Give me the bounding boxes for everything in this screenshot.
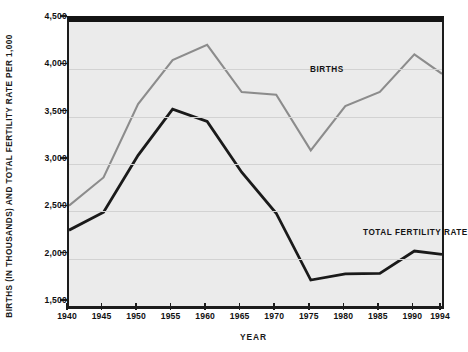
x-axis-title: YEAR — [67, 332, 440, 342]
x-axis-tick-mark — [170, 303, 172, 310]
y-axis-tick-mark — [60, 63, 67, 65]
y-axis-tick-mark — [60, 252, 67, 254]
x-axis-tick-mark — [273, 303, 275, 310]
plot-inner: BIRTHS TOTAL FERTILITY RATE — [69, 22, 442, 306]
x-axis-tick-mark — [135, 303, 137, 310]
births-series-label: BIRTHS — [310, 65, 344, 74]
y-axis-tick-mark — [60, 15, 67, 17]
y-axis-tick-mark — [60, 299, 67, 301]
x-axis-tick-mark — [66, 303, 68, 310]
y-axis-tick-mark — [60, 110, 67, 112]
x-axis-tick-label: 1994 — [420, 311, 460, 321]
x-axis-tick-mark — [204, 303, 206, 310]
plot-area: BIRTHS TOTAL FERTILITY RATE — [67, 16, 444, 309]
x-axis-tick-mark — [412, 303, 414, 310]
x-axis-tick-mark — [239, 303, 241, 310]
x-axis-tick-labels: 1940194519501955196019651970197519801985… — [67, 311, 440, 327]
gridline — [69, 117, 442, 118]
gridline — [69, 259, 442, 260]
total-fertility-rate-series-label: TOTAL FERTILITY RATE — [363, 228, 468, 237]
x-axis-tick-mark — [308, 303, 310, 310]
x-axis-tick-marks — [67, 303, 440, 311]
x-axis-tick-mark — [343, 303, 345, 310]
x-axis-tick-mark — [377, 303, 379, 310]
gridline — [69, 164, 442, 165]
total-fertility-rate-line — [69, 109, 442, 280]
y-axis-tick-mark — [60, 157, 67, 159]
y-axis-tick-mark — [60, 205, 67, 207]
gridline — [69, 211, 442, 212]
gridline — [69, 69, 442, 70]
x-axis-tick-mark — [101, 303, 103, 310]
x-axis-tick-mark — [439, 303, 441, 310]
